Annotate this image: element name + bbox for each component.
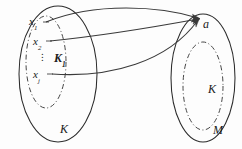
element-label-x1: x1 xyxy=(29,16,37,30)
left-inner-set-label-K1: K1 xyxy=(54,52,66,67)
arrow-x1-to-a xyxy=(46,8,198,22)
vertical-ellipsis: . . . xyxy=(41,50,44,59)
right-outer-set-label-M: M xyxy=(213,124,223,136)
left-outer-set-label-K: K xyxy=(60,123,68,135)
point-label-a: a xyxy=(203,18,209,30)
set-mapping-diagram: x1 x2 . . . xj K1 K a K M xyxy=(0,0,242,149)
arrow-xj-to-a xyxy=(52,20,198,75)
right-outer-ellipse-M xyxy=(171,14,235,142)
element-label-xj: xj xyxy=(33,69,40,83)
right-inner-ellipse-K xyxy=(183,42,223,130)
arrow-x2-to-a xyxy=(50,19,198,41)
right-inner-set-label-K: K xyxy=(208,83,216,95)
